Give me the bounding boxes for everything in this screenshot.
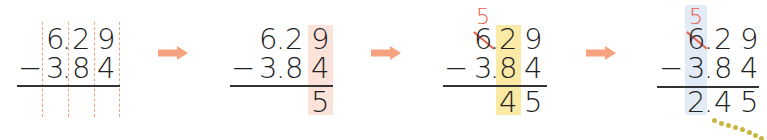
result-digit: 4: [714, 88, 732, 117]
result-digit: 2: [687, 88, 705, 117]
digit: 9: [311, 25, 329, 54]
digit: 4: [740, 54, 758, 83]
digit: 8: [72, 54, 90, 83]
minus-sign: −: [444, 54, 468, 83]
decimal-point: .: [276, 54, 285, 83]
sum-line: [17, 85, 120, 87]
decimal-point: .: [490, 25, 499, 54]
decimal-point: .: [62, 25, 71, 54]
result-digit: 5: [740, 88, 758, 117]
guide-dash: [94, 22, 95, 117]
digit: 3: [687, 54, 705, 83]
digit: 4: [97, 54, 115, 83]
result-digit: 5: [524, 88, 542, 117]
decimal-point: .: [490, 54, 499, 83]
decimal-point: .: [62, 54, 71, 83]
decimal-point: .: [704, 54, 713, 83]
digit: 2: [285, 25, 303, 54]
digit: 8: [499, 54, 517, 83]
digit: 9: [97, 25, 115, 54]
decimal-point: .: [276, 25, 285, 54]
digit: 3: [259, 54, 277, 83]
digit: 9: [524, 25, 542, 54]
decimal-point: .: [704, 25, 713, 54]
minus-sign: −: [659, 54, 683, 83]
decimal-point: .: [704, 88, 713, 117]
guide-dash: [119, 22, 120, 117]
result-digit: 4: [499, 88, 517, 117]
digit: 8: [714, 54, 732, 83]
digit: 6: [687, 25, 705, 54]
digit: 2: [714, 25, 732, 54]
digit: 4: [524, 54, 542, 83]
minus-sign: −: [231, 54, 255, 83]
arrow-right-icon: [586, 46, 616, 60]
arrow-right-icon: [158, 46, 188, 60]
digit: 2: [72, 25, 90, 54]
minus-sign: −: [18, 54, 42, 83]
result-digit: 5: [311, 88, 329, 117]
digit: 4: [311, 54, 329, 83]
digit: 9: [740, 25, 758, 54]
digit: 8: [285, 54, 303, 83]
arrow-right-icon: [371, 46, 401, 60]
digit: 6: [259, 25, 277, 54]
digit: 2: [499, 25, 517, 54]
